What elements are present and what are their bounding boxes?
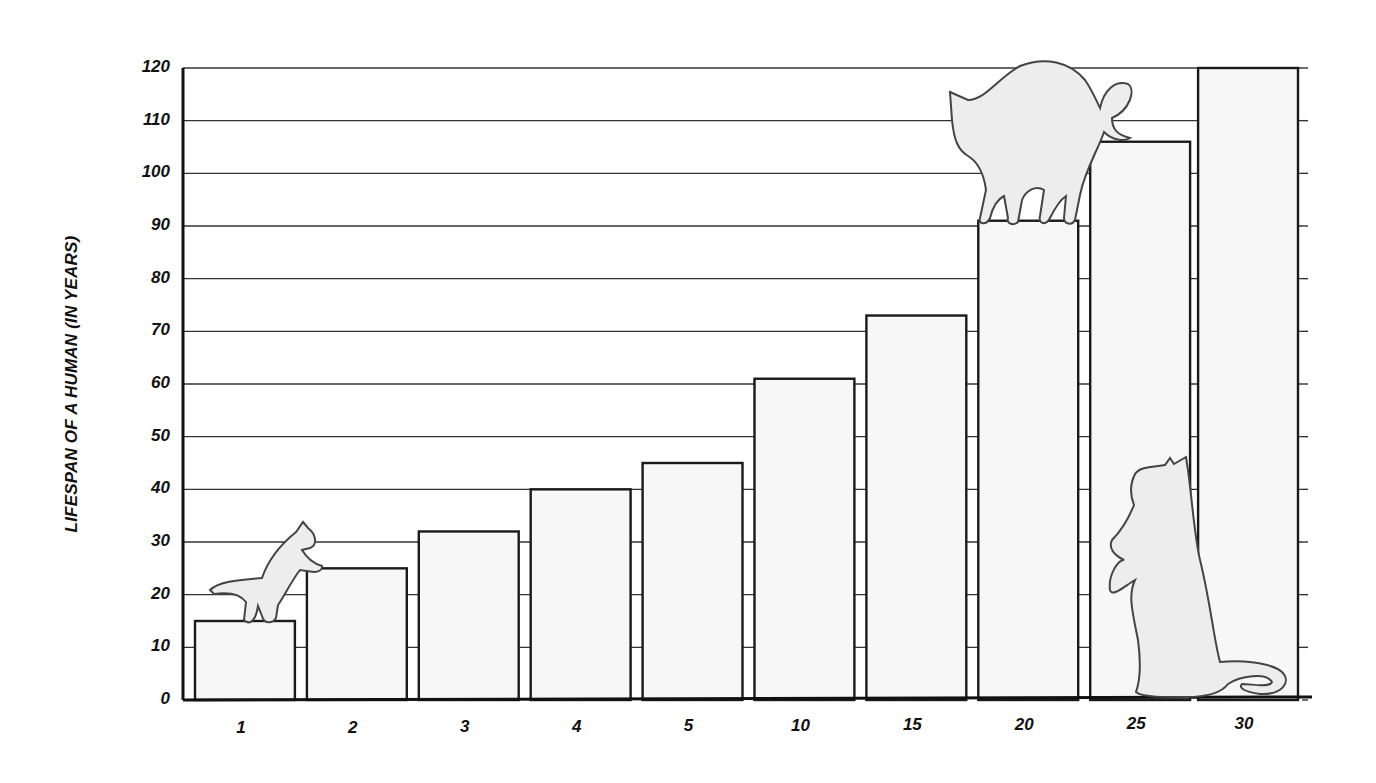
bar-3 [419,531,519,700]
bar-5 [643,463,743,700]
bar-10 [755,379,855,700]
bar-4 [531,489,631,700]
bar-20 [978,221,1078,700]
bar-1 [195,621,295,700]
bar-chart: LIFESPAN OF A HUMAN (IN YEARS) 010203040… [0,0,1376,783]
kitten-illustration [210,522,322,622]
bar-15 [866,316,966,700]
bar-2 [307,568,407,700]
plot-area [0,0,1376,783]
bar-30 [1198,68,1298,700]
